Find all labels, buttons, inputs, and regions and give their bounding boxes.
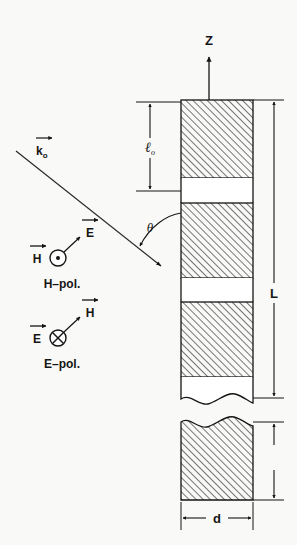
slab-block-3-hatch: [181, 302, 253, 377]
slab-block-2: [181, 203, 253, 278]
h-pol-e-label: E: [86, 226, 94, 240]
total-length-label: L: [270, 286, 278, 301]
slab-gap-2: [181, 278, 253, 302]
e-pol-e-label: E: [33, 332, 41, 346]
slab-block-4: [181, 417, 253, 500]
slab-block-2-hatch: [181, 203, 253, 278]
slab-gap-1-fill: [181, 178, 253, 203]
angle-label: θ: [147, 220, 154, 235]
slab-gap-2-fill: [181, 278, 253, 302]
figure-root: Z: [0, 0, 297, 545]
slab-stack: [181, 100, 253, 500]
h-pol-h-label: H: [33, 252, 42, 266]
slab-block-1-hatch: [181, 100, 253, 178]
periodic-slab-diagram: Z: [0, 0, 297, 545]
slab-block-3: [181, 302, 253, 377]
slab-gap-1: [181, 178, 253, 203]
h-pol-dot-in-circle-icon: [50, 250, 66, 266]
slab-block-4-hatch: [181, 417, 253, 500]
h-pol-caption: H–pol.: [44, 277, 81, 291]
slab-block-1: [181, 100, 253, 178]
e-pol-cross-in-circle-icon: [50, 330, 66, 346]
thickness-label: d: [213, 511, 221, 526]
z-axis-label: Z: [205, 33, 213, 48]
h-pol-dot: [56, 256, 60, 260]
e-pol-h-label: H: [86, 306, 95, 320]
e-pol-caption: E–pol.: [44, 357, 80, 371]
